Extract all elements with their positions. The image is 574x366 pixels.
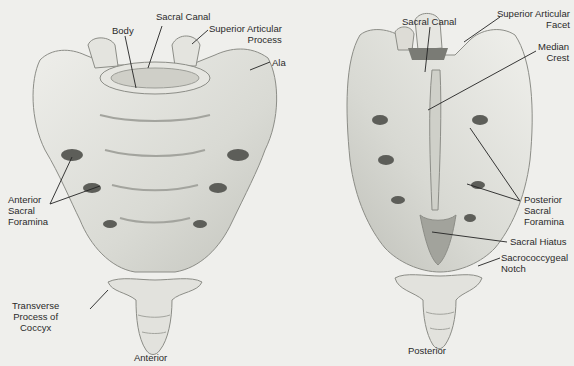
label-posterior-sacral-foramina: Posterior Sacral Foramina (524, 194, 564, 227)
view-title-anterior: Anterior (134, 352, 167, 363)
label-transverse-process-coccyx: Transverse Process of Coccyx (12, 300, 59, 333)
label-sacral-canal-posterior: Sacral Canal (402, 16, 456, 27)
anterior-sacrum (33, 36, 277, 355)
sacrum-diagram: Sacral Canal Body Superior Articular Pro… (0, 0, 574, 366)
label-body: Body (112, 25, 134, 36)
posterior-sacrum (347, 13, 532, 348)
label-anterior-sacral-foramina: Anterior Sacral Foramina (8, 194, 48, 227)
label-ala: Ala (272, 57, 286, 68)
label-superior-articular-process: Superior Articular Process (209, 23, 282, 45)
view-title-posterior: Posterior (408, 345, 446, 356)
label-superior-articular-facet: Superior Articular Facet (497, 8, 570, 30)
label-median-crest: Median Crest (538, 41, 569, 63)
label-sacrococcygeal-notch: Sacrococcygeal Notch (501, 252, 568, 274)
label-sacral-hiatus: Sacral Hiatus (510, 236, 567, 247)
sacrum-illustration (0, 0, 574, 366)
label-sacral-canal-anterior: Sacral Canal (156, 11, 210, 22)
